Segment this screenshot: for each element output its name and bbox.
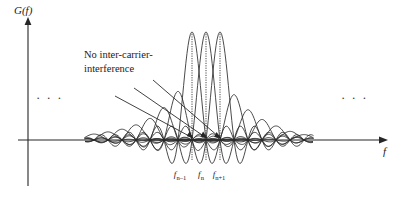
annotation-text: No inter-carrier- interference (84, 49, 153, 74)
y-axis (25, 17, 32, 186)
x-tick-label: fn–1 (174, 169, 186, 181)
ofdm-spectrum-figure: G(f) f · · · · · · No inter-carrier- int… (0, 0, 400, 202)
x-axis-arrowhead (379, 136, 388, 143)
annotation-line-1: No inter-carrier- (84, 49, 153, 60)
left-ellipsis: · · · (36, 90, 63, 105)
sinc-curve (136, 95, 313, 150)
figure-canvas: G(f) f · · · · · · No inter-carrier- int… (0, 0, 400, 202)
right-ellipsis: · · · (341, 90, 368, 105)
x-tick-label: fn+1 (213, 169, 226, 181)
x-tick-label: fn (198, 169, 205, 181)
y-axis-label: G(f) (14, 4, 33, 17)
tick-label-group: fn–1fnfn+1 (174, 169, 225, 181)
x-axis-label: f (383, 145, 388, 157)
annotation-line-2: interference (84, 63, 134, 74)
y-axis-arrowhead (25, 17, 32, 25)
